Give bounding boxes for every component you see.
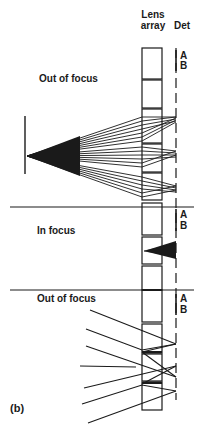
- lens-box: [142, 382, 162, 410]
- lens-box: [142, 354, 162, 381]
- lens-box: [142, 290, 162, 322]
- optics-diagram: [0, 0, 204, 446]
- lens-box: [142, 80, 162, 108]
- lens-box: [142, 203, 162, 235]
- lens-box: [142, 109, 162, 143]
- lens-box: [142, 48, 162, 79]
- lens-box: [142, 266, 162, 290]
